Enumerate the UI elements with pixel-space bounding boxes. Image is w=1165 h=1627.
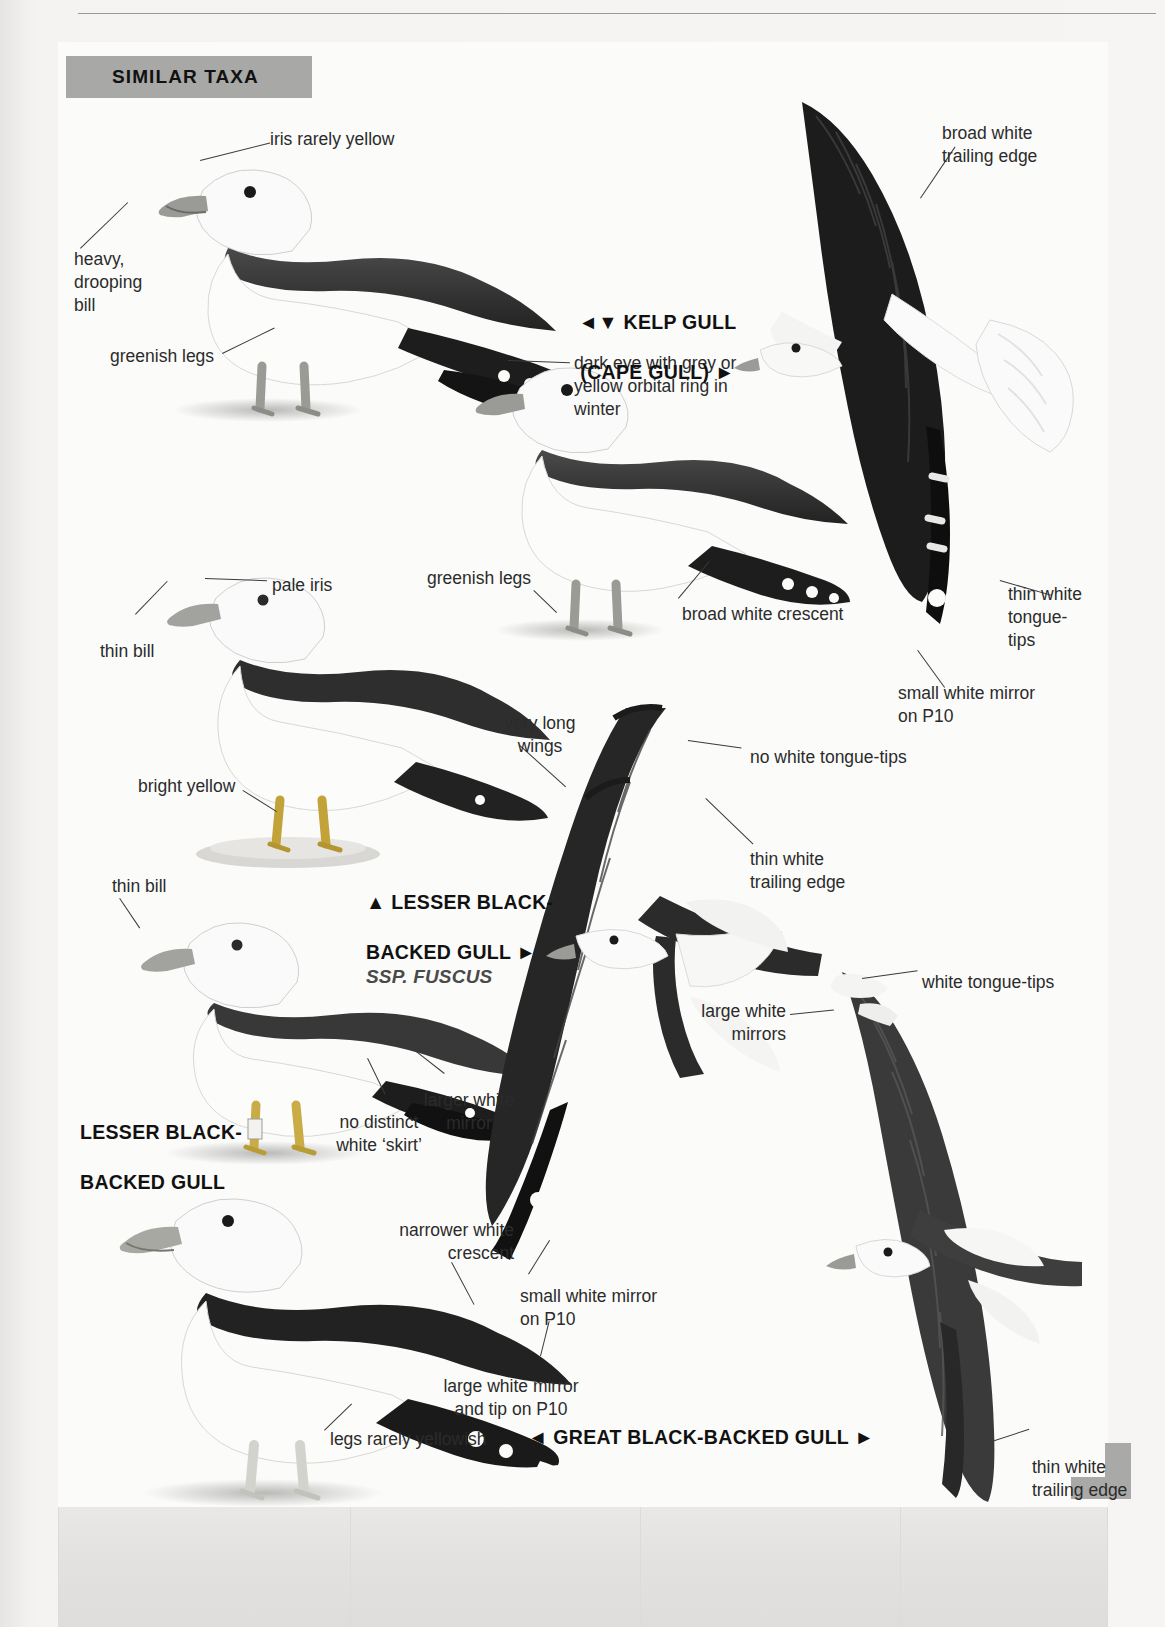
similar-taxa-header: SIMILAR TAXA <box>66 56 312 98</box>
figure-lesser-black-backed-fuscus-standing <box>128 548 548 868</box>
page-bottom-seams <box>0 1507 1165 1627</box>
annotation-narrower-white-crescent: narrower white crescent <box>330 1219 514 1265</box>
annotation-white-tongue-tips: white tongue-tips <box>922 971 1054 994</box>
annotation-small-white-mirror-p10-1: small white mirror on P10 <box>898 682 1035 728</box>
species-label-gbbg-line1: ◄ GREAT BLACK-BACKED GULL ► <box>528 1426 874 1448</box>
species-label-lbbg-line1: LESSER BLACK- <box>80 1121 242 1143</box>
annotation-greenish-legs-1: greenish legs <box>110 345 214 368</box>
species-label-great-black-backed-gull: ◄ GREAT BLACK-BACKED GULL ► <box>528 1400 908 1450</box>
annotation-broad-white-crescent: broad white crescent <box>682 603 843 626</box>
species-label-lbbg-fuscus-line2: BACKED GULL ► <box>366 941 536 963</box>
species-label-kelp-gull-line1: ◄▼ KELP GULL <box>579 311 737 333</box>
annotation-thin-white-tongue-tips: thin white tongue- tips <box>1008 583 1082 651</box>
species-label-kelp-gull: ◄▼ KELP GULL (CAPE GULL) ► <box>550 285 765 385</box>
annotation-heavy-drooping-bill: heavy, drooping bill <box>74 248 142 316</box>
annotation-bright-yellow: bright yellow <box>138 775 235 798</box>
species-label-lbbg-line2: BACKED GULL <box>80 1171 225 1193</box>
species-label-lesser-black-backed-gull-fuscus: ▲ LESSER BLACK- BACKED GULL ► SSP. FUSCU… <box>366 865 596 1014</box>
species-label-lbbg-fuscus-ssp: SSP. FUSCUS <box>366 965 596 989</box>
figure-kelp-gull-flight-underwing <box>752 80 1082 670</box>
annotation-no-white-tongue-tips: no white tongue-tips <box>750 746 907 769</box>
annotation-very-long-wings: very long wings <box>492 712 588 758</box>
annotation-legs-rarely-yellowish: legs rarely yellowish <box>330 1428 487 1451</box>
annotation-thin-bill-2: thin bill <box>112 875 166 898</box>
annotation-iris-rarely-yellow: iris rarely yellow <box>270 128 394 151</box>
annotation-broad-white-trailing-edge: broad white trailing edge <box>942 122 1037 168</box>
species-label-lesser-black-backed-gull: LESSER BLACK- BACKED GULL <box>80 1095 310 1195</box>
annotation-pale-iris: pale iris <box>272 574 332 597</box>
annotation-large-white-mirrors: large white mirrors <box>620 1000 786 1046</box>
species-label-lbbg-fuscus-line1: ▲ LESSER BLACK- <box>366 891 553 913</box>
annotation-no-distinct-white-skirt: no distinct white ‘skirt’ <box>318 1111 440 1157</box>
similar-taxa-header-label: SIMILAR TAXA <box>112 66 259 88</box>
page-header-rule <box>78 13 1156 14</box>
annotation-small-white-mirror-p10-2: small white mirror on P10 <box>520 1285 657 1331</box>
annotation-thin-bill-1: thin bill <box>100 640 154 663</box>
species-label-kelp-gull-line2: (CAPE GULL) ► <box>580 361 734 383</box>
annotation-thin-white-trailing-edge-1: thin white trailing edge <box>750 848 845 894</box>
annotation-thin-white-trailing-edge-2: thin white trailing edge <box>1032 1456 1127 1502</box>
field-guide-page: SIMILAR TAXA <box>0 0 1165 1627</box>
annotation-greenish-legs-2: greenish legs <box>427 567 531 590</box>
